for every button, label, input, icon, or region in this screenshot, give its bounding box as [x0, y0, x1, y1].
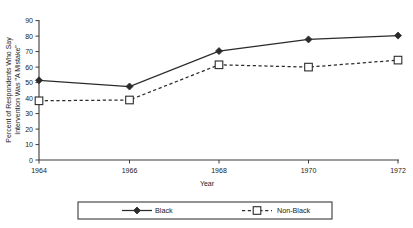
- legend-marker-non-black-square-icon: [253, 207, 261, 215]
- y-tick-label: 40: [25, 95, 33, 102]
- y-tick-label: 70: [25, 48, 33, 55]
- line-chart: 90 80 70 60 50 40 30 20 10 0 1964 1966 1…: [0, 0, 413, 228]
- chart-legend: Black Non-Black: [78, 202, 332, 219]
- y-tick-labels: 90 80 70 60 50 40 30 20 10 0: [25, 17, 33, 163]
- x-tick-label: 1972: [390, 167, 406, 174]
- x-tick-label: 1966: [122, 167, 138, 174]
- x-axis-title: Year: [200, 180, 215, 187]
- y-tick-label: 60: [25, 64, 33, 71]
- y-tick-label: 50: [25, 79, 33, 86]
- legend-label-black: Black: [155, 206, 173, 215]
- y-tick-label: 90: [25, 17, 33, 24]
- y-tick-label: 0: [29, 157, 33, 164]
- y-tick-label: 20: [25, 126, 33, 133]
- x-tick-labels: 1964 1966 1968 1970 1972: [31, 167, 406, 174]
- y-tick-label: 10: [25, 141, 33, 148]
- x-tick-label: 1964: [31, 167, 47, 174]
- y-tick-label: 30: [25, 110, 33, 117]
- x-tick-label: 1970: [301, 167, 317, 174]
- y-tick-label: 80: [25, 33, 33, 40]
- x-tick-label: 1968: [211, 167, 227, 174]
- y-axis-title-line2: Intervention Was "A Mistake": [14, 45, 21, 135]
- chart-canvas: 90 80 70 60 50 40 30 20 10 0 1964 1966 1…: [0, 0, 413, 228]
- legend-label-non-black: Non-Black: [277, 206, 311, 215]
- y-axis-title-line1: Percent of Respondents Who Say: [5, 37, 13, 143]
